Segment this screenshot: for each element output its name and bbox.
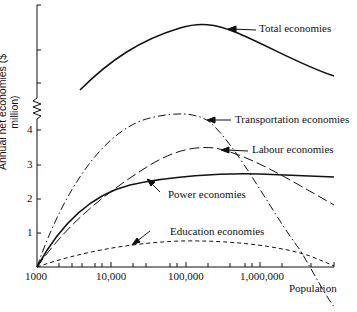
- label-total: Total economies: [259, 22, 331, 34]
- x-axis: [37, 262, 334, 267]
- x-tick-1000000: 1,000,000: [240, 270, 284, 282]
- x-tick-100000: 100,000: [168, 270, 204, 282]
- label-transportation: Transportation economies: [235, 113, 349, 125]
- series-labour: [37, 148, 334, 267]
- x-tick-10000: 10,000: [96, 270, 126, 282]
- y-tick-2: 2: [27, 192, 33, 204]
- y-tick-3: 3: [27, 158, 33, 170]
- y-axis-label: Annual net economies ($ million): [0, 42, 20, 182]
- x-axis-label: Population: [289, 282, 337, 294]
- y-tick-4: 4: [27, 123, 33, 135]
- label-labour: Labour economies: [252, 143, 334, 155]
- x-tick-1000: 1000: [25, 270, 47, 282]
- label-power: Power economies: [168, 188, 246, 200]
- label-education: Education economies: [170, 225, 264, 237]
- y-axis: [33, 5, 41, 267]
- chart-canvas: [0, 0, 357, 312]
- series-total: [80, 25, 334, 90]
- annotation-arrows: [132, 26, 256, 245]
- y-tick-1: 1: [27, 226, 33, 238]
